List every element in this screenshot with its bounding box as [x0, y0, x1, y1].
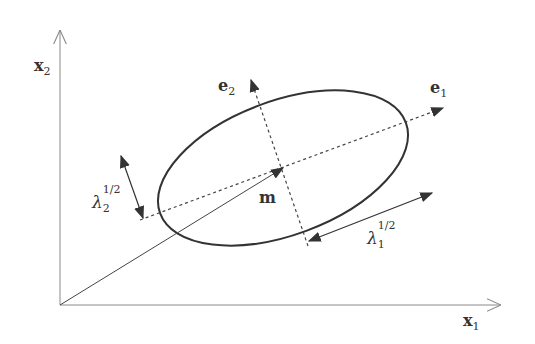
principal-axes [140, 80, 443, 246]
e2-label: e2 [218, 76, 235, 98]
x-axis-label: x1 [463, 311, 480, 333]
lambda2-label: λ21/2 [91, 183, 120, 215]
lambda1-label: λ11/2 [366, 219, 395, 251]
e1-axis-line [140, 108, 443, 220]
mean-label: m [259, 188, 276, 207]
gaussian-ellipse-diagram: x2 x1 e1 e2 m λ21/2 λ11/2 [0, 0, 535, 344]
lambda2-double-arrow [121, 156, 143, 218]
coordinate-axes [60, 30, 501, 305]
e1-label: e1 [430, 78, 447, 100]
mean-vector-arrow [60, 168, 283, 305]
y-axis-label: x2 [34, 56, 51, 78]
